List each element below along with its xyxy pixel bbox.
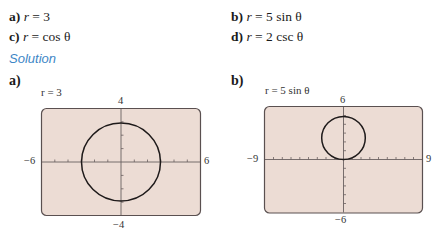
graph-b-plot	[0, 0, 442, 236]
